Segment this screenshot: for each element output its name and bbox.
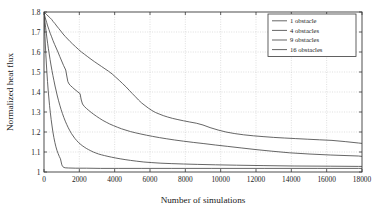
y-tick-label: 1 — [37, 168, 41, 177]
x-tick-label: 12000 — [247, 175, 266, 184]
y-tick-label: 1.7 — [31, 28, 41, 37]
x-tick-label: 10000 — [211, 175, 230, 184]
y-tick-label: 1.6 — [31, 48, 41, 57]
y-axis-tick-labels: 11.11.21.31.41.51.61.71.8 — [31, 8, 41, 177]
x-tick-label: 2000 — [72, 175, 87, 184]
y-tick-label: 1.4 — [31, 88, 41, 97]
legend-label-2[interactable]: 4 obstacles — [290, 27, 320, 34]
x-tick-label: 18000 — [353, 175, 372, 184]
y-axis-title: Normalized heat flux — [5, 53, 15, 131]
y-tick-label: 1.1 — [31, 148, 41, 157]
y-tick-label: 1.2 — [31, 128, 41, 137]
x-tick-label: 0 — [42, 175, 46, 184]
x-tick-label: 4000 — [107, 175, 122, 184]
legend-label-4[interactable]: 16 obstacles — [290, 46, 323, 53]
x-tick-label: 6000 — [143, 175, 158, 184]
chart-legend[interactable]: 1 obstacle4 obstacles9 obstacles16 obsta… — [268, 14, 356, 56]
legend-label-1[interactable]: 1 obstacle — [290, 17, 317, 24]
y-tick-label: 1.5 — [31, 68, 41, 77]
x-tick-label: 14000 — [282, 175, 301, 184]
y-tick-label: 1.3 — [31, 108, 41, 117]
legend-label-3[interactable]: 9 obstacles — [290, 36, 320, 43]
y-tick-label: 1.8 — [31, 8, 41, 17]
x-tick-label: 8000 — [178, 175, 193, 184]
chart-figure: 0200040006000800010000120001400016000180… — [0, 0, 376, 219]
x-axis-title: Number of simulations — [161, 195, 246, 205]
x-tick-label: 16000 — [317, 175, 336, 184]
line-chart: 0200040006000800010000120001400016000180… — [0, 0, 376, 219]
x-axis-tick-labels: 0200040006000800010000120001400016000180… — [42, 175, 371, 184]
